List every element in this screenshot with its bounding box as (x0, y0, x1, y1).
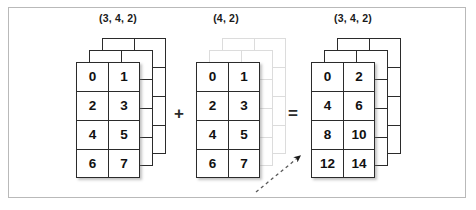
cell-r2c1: 10 (343, 120, 375, 149)
cell-r3c0: 6 (196, 149, 228, 178)
result-shape-label: (3, 4, 2) (305, 12, 401, 24)
cell-r0c1: 1 (228, 62, 260, 91)
cell-r0c0: 0 (196, 62, 228, 91)
cell-r0c0: 0 (76, 62, 108, 91)
result-front-layer: 0 2 4 6 8 10 12 14 (311, 62, 375, 178)
cell-r1c0: 2 (196, 91, 228, 120)
equals-operator: = (284, 105, 302, 122)
cell-r0c0: 0 (311, 62, 343, 91)
left-operand-front-layer: 0 1 2 3 4 5 6 7 (76, 62, 140, 178)
cell-r3c0: 12 (311, 149, 343, 178)
left-operand-group: (3, 4, 2) 0 1 2 3 (70, 12, 166, 192)
left-operand-shape-label: (3, 4, 2) (70, 12, 166, 24)
cell-r1c1: 3 (228, 91, 260, 120)
cell-r2c1: 5 (228, 120, 260, 149)
cell-r0c1: 2 (343, 62, 375, 91)
plus-operator: + (170, 105, 188, 122)
cell-r1c1: 3 (108, 91, 140, 120)
cell-r2c0: 4 (196, 120, 228, 149)
cell-r1c1: 6 (343, 91, 375, 120)
cell-r2c1: 5 (108, 120, 140, 149)
broadcasting-figure: (3, 4, 2) 0 1 2 3 (0, 0, 476, 210)
cell-r2c0: 8 (311, 120, 343, 149)
result-group: (3, 4, 2) 0 2 4 6 (305, 12, 401, 192)
cell-r3c0: 6 (76, 149, 108, 178)
cell-r3c1: 7 (108, 149, 140, 178)
cell-r2c0: 4 (76, 120, 108, 149)
cell-r3c1: 14 (343, 149, 375, 178)
cell-r0c1: 1 (108, 62, 140, 91)
broadcast-arrow (252, 148, 314, 196)
cell-r1c0: 4 (311, 91, 343, 120)
cell-r1c0: 2 (76, 91, 108, 120)
right-operand-front-layer: 0 1 2 3 4 5 6 7 (196, 62, 260, 178)
right-operand-shape-label: (4, 2) (178, 12, 274, 24)
